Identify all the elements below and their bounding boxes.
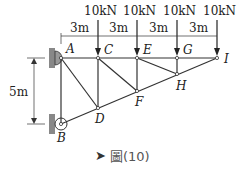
node-label-c: C — [104, 43, 113, 57]
load-label-i: 10kN — [203, 4, 236, 18]
figure-caption: ➤ 圖(10) — [95, 146, 150, 165]
vertical-dimension — [27, 58, 45, 124]
spacing-label-2: 3m — [109, 21, 129, 35]
node-label-g: G — [183, 43, 193, 57]
node-label-e: E — [142, 43, 152, 57]
arrow-down-icon — [134, 48, 140, 56]
arrow-down-icon — [174, 48, 180, 56]
node-label-f: F — [134, 95, 144, 109]
height-label: 5m — [9, 85, 29, 99]
node-label-d: D — [94, 112, 105, 126]
wall-support-b — [49, 114, 55, 134]
node-label-i: I — [223, 52, 229, 66]
spacing-label-3: 3m — [149, 21, 169, 35]
spacing-label-4: 3m — [189, 21, 209, 35]
load-label-g: 10kN — [163, 4, 196, 18]
node-label-h: H — [175, 79, 187, 93]
node-label-a: A — [65, 42, 75, 56]
load-label-c: 10kN — [84, 4, 117, 18]
load-label-e: 10kN — [123, 4, 156, 18]
spacing-label-1: 3m — [70, 21, 90, 35]
arrow-down-icon — [31, 118, 37, 124]
arrow-down-icon — [95, 48, 101, 56]
arrow-icon: ➤ — [95, 148, 106, 163]
wall-support-a — [49, 48, 55, 68]
arrow-down-icon — [214, 48, 220, 56]
caption-text: 圖(10) — [110, 146, 150, 165]
arrow-up-icon — [31, 58, 37, 64]
node-label-b: B — [56, 131, 66, 145]
